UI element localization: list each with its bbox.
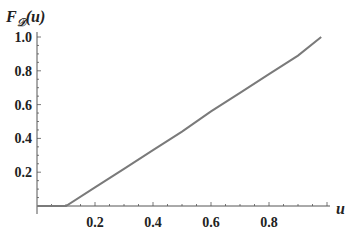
- y-tick-label: 0.2: [15, 165, 33, 180]
- y-tick-label: 0.8: [15, 64, 33, 79]
- x-axis-title: u: [336, 200, 345, 217]
- x-tick-label: 0.4: [144, 215, 162, 230]
- y-tick-label: 0.4: [15, 131, 33, 146]
- axes: 0.20.40.60.80.20.40.60.81.0: [15, 30, 331, 230]
- chart: 0.20.40.60.80.20.40.60.81.0 F𝒟(u) u: [0, 0, 358, 237]
- series-line: [37, 37, 321, 206]
- x-tick-label: 0.2: [86, 215, 104, 230]
- y-tick-label: 1.0: [15, 30, 33, 45]
- y-tick-label: 0.6: [15, 98, 33, 113]
- y-axis-title: F𝒟(u): [5, 8, 45, 28]
- x-tick-label: 0.6: [202, 215, 220, 230]
- x-tick-label: 0.8: [260, 215, 278, 230]
- axis-labels: F𝒟(u) u: [5, 8, 345, 217]
- plot-series: [37, 37, 321, 206]
